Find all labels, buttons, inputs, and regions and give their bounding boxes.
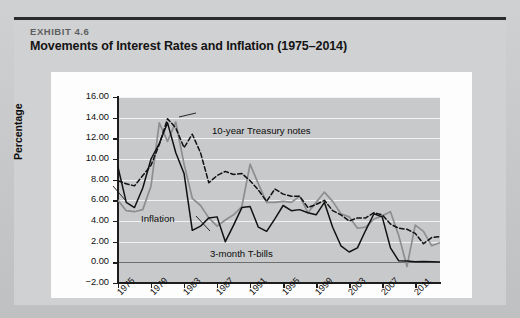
y-axis-tick-label: −2.00 — [85, 277, 109, 287]
y-axis-tick-label: 16.00 — [86, 91, 109, 101]
page-background: EXHIBIT 4.6 Movements of Interest Rates … — [0, 0, 520, 318]
series-line — [118, 123, 440, 262]
y-axis-tick-label: 2.00 — [91, 236, 109, 246]
annotation-inflation: Inflation — [141, 213, 175, 224]
y-axis-tick-label: 10.00 — [86, 153, 109, 163]
exhibit-card: EXHIBIT 4.6 Movements of Interest Rates … — [14, 17, 506, 305]
y-axis-title: Percentage — [12, 103, 24, 160]
y-axis-tick-label: 8.00 — [91, 174, 109, 184]
series-line — [118, 122, 440, 267]
y-axis-tick-label: 12.00 — [86, 132, 109, 142]
y-axis-tick-label: 14.00 — [86, 112, 109, 122]
y-axis-tick-label: 4.00 — [91, 215, 109, 225]
y-axis-labels: 16.0014.0012.0010.008.006.004.002.000.00… — [14, 17, 113, 318]
y-axis-tick-label: 0.00 — [91, 256, 109, 266]
y-axis-tick-label: 6.00 — [91, 194, 109, 204]
annotation-tbills: 3-month T-bills — [210, 248, 273, 259]
annotation-treasury-notes: 10-year Treasury notes — [212, 125, 311, 136]
